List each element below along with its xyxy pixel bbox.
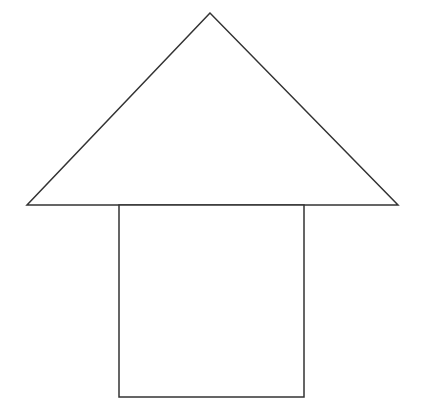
house-diagram [0,0,427,417]
body-rectangle [119,205,304,397]
